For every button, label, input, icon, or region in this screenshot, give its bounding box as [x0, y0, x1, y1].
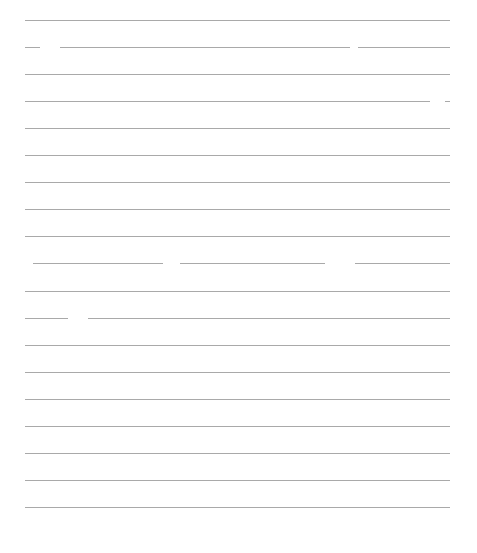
ruled-line [25, 155, 450, 156]
ruled-line [25, 399, 450, 400]
ruled-line [358, 47, 450, 48]
ruled-line [33, 263, 163, 264]
ruled-line [25, 318, 68, 319]
ruled-line [88, 318, 450, 319]
ruled-line [25, 345, 450, 346]
ruled-line [25, 47, 40, 48]
ruled-line [25, 209, 450, 210]
ruled-line [25, 453, 450, 454]
ruled-line [25, 182, 450, 183]
ruled-line [445, 101, 450, 102]
ruled-line [25, 507, 450, 508]
ruled-line [25, 101, 430, 102]
ruled-line [60, 47, 350, 48]
ruled-line [180, 263, 325, 264]
ruled-line [25, 20, 450, 21]
ruled-line [25, 426, 450, 427]
ruled-line [25, 128, 450, 129]
ruled-line [25, 236, 450, 237]
ruled-line [25, 372, 450, 373]
ruled-line [25, 291, 450, 292]
ruled-line [355, 263, 450, 264]
ruled-line [25, 74, 450, 75]
ruled-line [25, 480, 450, 481]
